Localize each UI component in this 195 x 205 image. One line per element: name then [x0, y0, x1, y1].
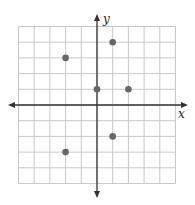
data-point [109, 39, 116, 46]
data-point [62, 149, 69, 156]
axes [8, 14, 188, 198]
data-point [109, 133, 116, 140]
data-point [62, 55, 69, 62]
y-axis-arrow-down-icon [94, 191, 100, 198]
data-point [125, 86, 132, 93]
x-axis-label: x [178, 107, 185, 121]
x-axis-arrow-left-icon [8, 102, 15, 108]
y-axis-arrow-up-icon [94, 14, 100, 21]
scatter-plot: x y [0, 0, 195, 205]
data-point [94, 86, 101, 93]
y-axis-label: y [102, 12, 110, 26]
